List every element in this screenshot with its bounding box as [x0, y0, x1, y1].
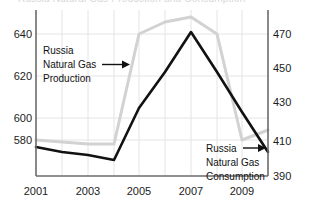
x-tick-2003: 2003: [76, 185, 100, 197]
left-tick-620: 620: [14, 70, 32, 82]
right-tick-390: 390: [273, 170, 291, 182]
x-tick-2007: 2007: [179, 185, 203, 197]
x-tick-2009: 2009: [230, 185, 254, 197]
right-tick-450: 450: [273, 62, 291, 74]
left-tick-640: 640: [14, 28, 32, 40]
chart-plot-svg: 640 620 600 580 470 450 430 410 390 2001…: [0, 0, 310, 205]
left-tick-600: 600: [14, 112, 32, 124]
x-tick-2005: 2005: [127, 185, 151, 197]
consumption-annotation-line2: Natural Gas: [206, 157, 259, 168]
x-tick-2001: 2001: [24, 185, 48, 197]
left-tick-580: 580: [14, 134, 32, 146]
left-axis-tick-labels: 640 620 600 580: [14, 28, 32, 146]
consumption-annotation-line3: Consumption: [206, 171, 265, 182]
production-annotation-line1: Russia: [43, 45, 74, 56]
right-tick-410: 410: [273, 135, 291, 147]
chart-container: Russia Natural Gas Production and Consum…: [0, 0, 310, 205]
production-annotation-line3: Production: [43, 73, 91, 84]
production-annotation-line2: Natural Gas: [43, 59, 96, 70]
right-axis-tick-labels: 470 450 430 410 390: [273, 28, 291, 182]
right-tick-430: 430: [273, 96, 291, 108]
right-tick-470: 470: [273, 28, 291, 40]
x-axis-tick-labels: 2001 2003 2005 2007 2009: [24, 185, 254, 197]
consumption-annotation-line1: Russia: [206, 143, 237, 154]
